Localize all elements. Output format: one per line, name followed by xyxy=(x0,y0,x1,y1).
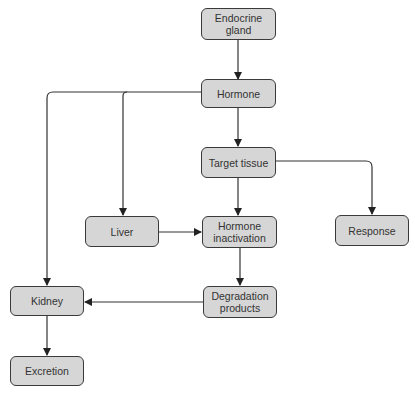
node-label: Kidney xyxy=(31,295,63,307)
node-liver: Liver xyxy=(85,216,159,247)
node-hormone-inactivation: Hormone inactivation xyxy=(202,216,277,248)
node-degradation-products: Degradation products xyxy=(203,286,277,318)
node-target-tissue: Target tissue xyxy=(201,147,276,178)
connector-lines xyxy=(0,0,415,396)
node-label: Endocrine gland xyxy=(215,12,262,36)
node-response: Response xyxy=(335,215,409,246)
node-label: Excretion xyxy=(25,365,69,377)
node-label: Response xyxy=(348,225,395,237)
node-label: Target tissue xyxy=(209,157,269,169)
node-endocrine-gland: Endocrine gland xyxy=(201,8,276,40)
node-hormone: Hormone xyxy=(201,79,276,108)
node-label: Degradation products xyxy=(211,290,268,314)
node-label: Liver xyxy=(111,226,134,238)
node-label: Hormone xyxy=(217,88,260,100)
node-kidney: Kidney xyxy=(10,286,84,316)
node-label: Hormone inactivation xyxy=(213,220,266,244)
node-excretion: Excretion xyxy=(10,356,84,386)
